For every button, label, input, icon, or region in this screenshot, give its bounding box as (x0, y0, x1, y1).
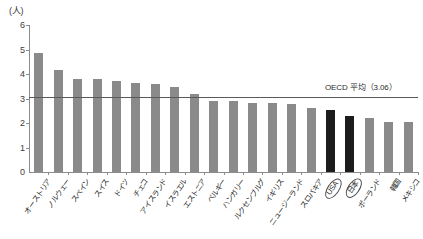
bar[interactable] (93, 79, 102, 172)
x-axis-category-label[interactable]: USA (322, 176, 345, 201)
x-axis-category-label[interactable]: スペイン (68, 176, 92, 204)
x-axis-tick-mark (282, 172, 283, 175)
x-axis-tick-mark (262, 172, 263, 175)
y-axis-tick-label: 6 (20, 21, 25, 30)
bar[interactable] (365, 118, 374, 172)
x-axis-tick-mark (204, 172, 205, 175)
x-axis-tick-mark (146, 172, 147, 175)
x-axis-tick-mark (224, 172, 225, 175)
bar[interactable] (287, 104, 296, 172)
x-axis-tick-mark (340, 172, 341, 175)
bar[interactable] (384, 122, 393, 172)
bar[interactable] (268, 103, 277, 172)
highlight-ellipse-annotation: USA (322, 176, 345, 201)
x-axis-tick-mark (321, 172, 322, 175)
bar[interactable] (248, 103, 257, 172)
bar[interactable] (326, 110, 335, 172)
bar[interactable] (229, 101, 238, 172)
x-axis-tick-mark (165, 172, 166, 175)
x-axis-tick-mark (68, 172, 69, 175)
x-axis-tick-mark (48, 172, 49, 175)
bar-series (29, 25, 418, 172)
y-axis-tick-label: 2 (20, 119, 25, 128)
bar[interactable] (345, 116, 354, 172)
x-axis-tick-mark (399, 172, 400, 175)
x-axis-tick-mark (301, 172, 302, 175)
bar[interactable] (209, 101, 218, 172)
bar[interactable] (34, 53, 43, 172)
bar[interactable] (73, 79, 82, 172)
oecd-average-label: OECD 平均（3.06） (325, 81, 397, 92)
y-axis-tick-label: 3 (20, 94, 25, 103)
y-axis-tick-label: 5 (20, 45, 25, 54)
x-axis-tick-mark (379, 172, 380, 175)
chart-canvas: (人) 0123456 OECD 平均（3.06） オーストリアノルウェースペイ… (0, 0, 423, 239)
bar[interactable] (307, 108, 316, 172)
bar[interactable] (190, 94, 199, 172)
x-axis-tick-mark (87, 172, 88, 175)
oecd-average-reference-line (29, 97, 418, 98)
y-axis-tick-label: 0 (20, 168, 25, 177)
x-axis-tick-mark (126, 172, 127, 175)
x-axis-category-label[interactable]: スイス (90, 176, 111, 199)
x-axis-category-label[interactable]: ドイツ (110, 176, 131, 199)
x-axis-category-label[interactable]: 韓国 (386, 176, 403, 193)
y-axis-tick-label: 1 (20, 143, 25, 152)
x-axis-tick-mark (360, 172, 361, 175)
x-axis-tick-mark (243, 172, 244, 175)
y-axis-tick-label: 4 (20, 70, 25, 79)
bar[interactable] (54, 70, 63, 172)
y-axis-unit-label: (人) (9, 4, 23, 17)
bar[interactable] (112, 81, 121, 172)
bar[interactable] (404, 122, 413, 172)
x-axis-tick-mark (107, 172, 108, 175)
x-axis-tick-mark (418, 172, 419, 175)
bar[interactable] (170, 87, 179, 172)
x-axis-tick-mark (185, 172, 186, 175)
